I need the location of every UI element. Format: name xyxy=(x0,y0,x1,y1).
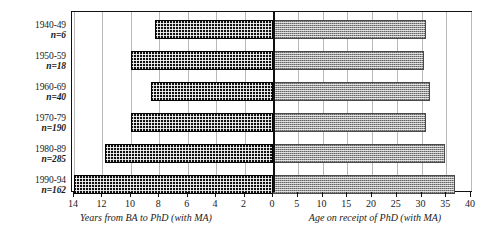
category-axis-labels: 1940-49 n=6 1950-59 n=18 1960-69 n=40 19… xyxy=(0,11,69,192)
bar-age-at-phd xyxy=(273,20,426,39)
axis-tick xyxy=(322,192,323,197)
bar-row xyxy=(72,113,471,132)
axis-tick xyxy=(130,192,131,197)
tick-label-age: 35 xyxy=(432,198,458,209)
axis-tick xyxy=(421,192,422,197)
category-label-group: 1950-59 n=18 xyxy=(0,52,66,71)
bar-years-to-phd xyxy=(155,20,273,39)
bar-years-to-phd xyxy=(131,113,273,132)
bar-age-at-phd xyxy=(273,51,424,70)
category-label-group: 1980-89 n=285 xyxy=(0,145,66,164)
right-axis-caption: Age on receipt of PhD (with MA) xyxy=(245,212,504,223)
tick-label-years: 8 xyxy=(145,198,171,209)
axis-tick xyxy=(346,192,347,197)
category-sample-size: n=285 xyxy=(0,155,66,165)
bar-row xyxy=(72,20,471,39)
axis-tick xyxy=(297,192,298,197)
tick-label-years: 4 xyxy=(202,198,228,209)
tick-label-age: 15 xyxy=(333,198,359,209)
category-label-group: 1960-69 n=40 xyxy=(0,83,66,102)
category-sample-size: n=18 xyxy=(0,62,66,72)
axis-tick xyxy=(272,192,273,197)
tick-label-age: 25 xyxy=(383,198,409,209)
tick-label-age: 5 xyxy=(284,198,310,209)
axis-tick xyxy=(470,192,471,197)
left-axis-caption: Years from BA to PhD (with MA) xyxy=(16,212,276,223)
bar-rows xyxy=(72,12,471,191)
bar-row xyxy=(72,82,471,101)
axis-tick-labels: 14121086420510152025303540 xyxy=(0,198,504,212)
bar-years-to-phd xyxy=(105,144,273,163)
tick-label-years: 10 xyxy=(117,198,143,209)
axis-tick xyxy=(215,192,216,197)
axis-captions: Years from BA to PhD (with MA) Age on re… xyxy=(0,212,504,230)
category-label-group: 1940-49 n=6 xyxy=(0,21,66,40)
tick-label-age: 30 xyxy=(408,198,434,209)
bar-age-at-phd xyxy=(273,82,430,101)
tick-label-years: 6 xyxy=(174,198,200,209)
bar-row xyxy=(72,51,471,70)
tick-label-age: 10 xyxy=(309,198,335,209)
bar-row xyxy=(72,144,471,163)
bar-age-at-phd xyxy=(273,113,426,132)
category-label-group: 1970-79 n=190 xyxy=(0,114,66,133)
tick-label-years: 12 xyxy=(88,198,114,209)
gridline xyxy=(471,12,472,191)
plot-area xyxy=(71,11,472,192)
axis-tick xyxy=(371,192,372,197)
butterfly-bar-chart: 1940-49 n=6 1950-59 n=18 1960-69 n=40 19… xyxy=(0,0,504,249)
bar-age-at-phd xyxy=(273,144,445,163)
tick-label-age: 40 xyxy=(457,198,483,209)
tick-label-years: 2 xyxy=(231,198,257,209)
axis-tick xyxy=(73,192,74,197)
bar-years-to-phd xyxy=(131,51,273,70)
axis-tick xyxy=(158,192,159,197)
axis-tick xyxy=(101,192,102,197)
tick-label-years: 0 xyxy=(259,198,285,209)
axis-tick xyxy=(396,192,397,197)
category-sample-size: n=190 xyxy=(0,124,66,134)
bar-years-to-phd xyxy=(151,82,273,101)
category-sample-size: n=6 xyxy=(0,31,66,41)
tick-label-years: 14 xyxy=(60,198,86,209)
axis-tick xyxy=(445,192,446,197)
tick-label-age: 20 xyxy=(358,198,384,209)
axis-tick xyxy=(187,192,188,197)
axis-tick xyxy=(244,192,245,197)
zero-axis-line xyxy=(273,11,275,192)
category-sample-size: n=40 xyxy=(0,93,66,103)
